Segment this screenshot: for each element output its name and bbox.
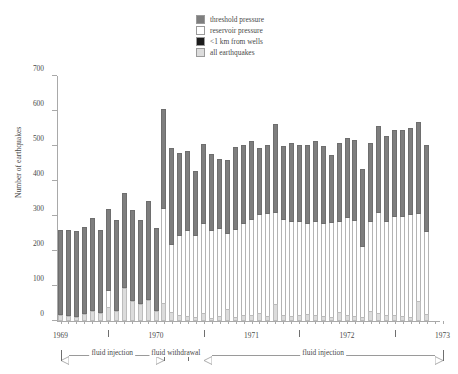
bar [122,193,127,321]
bar-segment-threshold-pressure [249,141,254,219]
earthquake-stacked-bar-figure: threshold pressurereservoir pressure<1 k… [0,0,458,374]
y-tick-label: 600 [33,98,44,107]
x-tick [61,321,62,324]
x-axis-line [57,321,440,322]
bar [169,148,174,321]
bar-segment-reservoir-pressure [106,291,111,307]
bar [297,145,302,321]
x-tick [236,321,237,324]
x-tick [283,321,284,324]
bar-segment-threshold-pressure [74,231,79,317]
bar [305,145,310,321]
bar [233,147,238,321]
bar [360,169,365,321]
x-tick [196,321,197,324]
x-tick [228,321,229,324]
bar-segment-threshold-pressure [66,230,71,316]
x-tick [140,321,141,324]
legend-item: <1 km from wells [196,36,264,46]
bar-segment-reservoir-pressure [424,232,429,314]
bar-segment-reservoir-pressure [217,229,222,316]
bar-segment-reservoir-pressure [209,231,214,317]
bar [384,136,389,321]
bar-segment-threshold-pressure [177,153,182,236]
bar-segment-reservoir-pressure [345,218,350,315]
bar [257,148,262,321]
bar-segment-all-earthquakes [130,301,135,321]
x-tick [188,321,189,324]
bar-segment-reservoir-pressure [265,214,270,316]
x-tick [347,321,348,324]
x-tick [100,321,101,324]
x-tick [244,321,245,324]
bar-segment-all-earthquakes [273,304,278,321]
x-tick [299,321,300,324]
x-tick [275,321,276,324]
x-tick [132,321,133,324]
y-tick: 100 [52,285,57,286]
bar-segment-all-earthquakes [368,311,373,322]
x-tick [411,321,412,324]
legend-swatch-icon [196,48,205,57]
bar-segment-all-earthquakes [424,314,429,321]
y-tick-label: 300 [33,203,44,212]
bar-segment-reservoir-pressure [161,209,166,303]
annotation-band-end [443,350,444,361]
bar-segment-all-earthquakes [201,313,206,321]
bar-segment-all-earthquakes [122,288,127,321]
bar [408,128,413,321]
bar-segment-all-earthquakes [98,313,103,321]
bar-segment-threshold-pressure [265,145,270,214]
bar [114,220,119,321]
y-tick-label: 400 [33,168,44,177]
bar-segment-all-earthquakes [376,313,381,321]
x-tick [164,321,165,324]
annotation-label: fluid withdrawal [149,348,202,357]
arrow-left-icon [61,351,69,360]
bar [321,146,326,321]
x-tick [68,321,69,324]
y-tick: 300 [52,215,57,216]
bar [416,122,421,321]
x-tick [172,321,173,324]
bar-segment-threshold-pressure [384,136,389,223]
bar [313,141,318,321]
legend-label: reservoir pressure [210,26,263,35]
bar-segment-reservoir-pressure [313,222,318,316]
bar-segment-threshold-pressure [408,128,413,216]
bar [241,145,246,321]
bar-segment-all-earthquakes [416,301,421,321]
bar [201,144,206,321]
x-tick [339,321,340,324]
bar [337,143,342,321]
bar-segment-reservoir-pressure [249,220,254,315]
bar-segment-threshold-pressure [424,145,429,232]
bar [289,143,294,321]
bar-segment-all-earthquakes [161,303,166,321]
x-tick [148,321,149,324]
bar [281,146,286,321]
legend-item: all earthquakes [196,47,264,57]
x-year-label: 1969 [53,331,68,340]
x-tick [76,321,77,324]
x-tick [427,321,428,324]
bar-segment-reservoir-pressure [392,217,397,314]
bar [376,126,381,321]
bar [392,130,397,321]
y-tick-label: 100 [33,273,44,282]
bar [345,138,350,321]
bar-segment-threshold-pressure [98,230,103,313]
bar-segment-threshold-pressure [146,201,151,300]
bar-segment-threshold-pressure [305,145,310,223]
x-tick [331,321,332,324]
x-tick [204,321,205,324]
bar-segment-reservoir-pressure [233,230,238,317]
x-tick [403,321,404,324]
bar-segment-all-earthquakes [305,314,310,321]
bar [130,210,135,321]
x-tick [84,321,85,324]
x-tick [267,321,268,324]
bar-segment-all-earthquakes [106,307,111,321]
annotation-label: fluid injection [300,348,346,357]
legend-label: <1 km from wells [210,37,263,46]
